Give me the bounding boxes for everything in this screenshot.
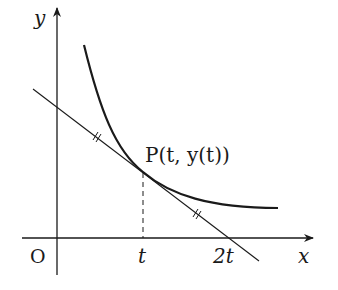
tick-label-t: t bbox=[138, 244, 147, 268]
tick-label-2t: 2t bbox=[212, 244, 235, 268]
point-label: P(t, y(t)) bbox=[145, 143, 230, 167]
origin-label: O bbox=[30, 245, 46, 267]
curve bbox=[84, 45, 278, 208]
x-axis-label: x bbox=[298, 244, 309, 268]
tangent-diagram: y x O t 2t P(t, y(t)) bbox=[0, 0, 338, 290]
y-axis-label: y bbox=[33, 6, 46, 30]
